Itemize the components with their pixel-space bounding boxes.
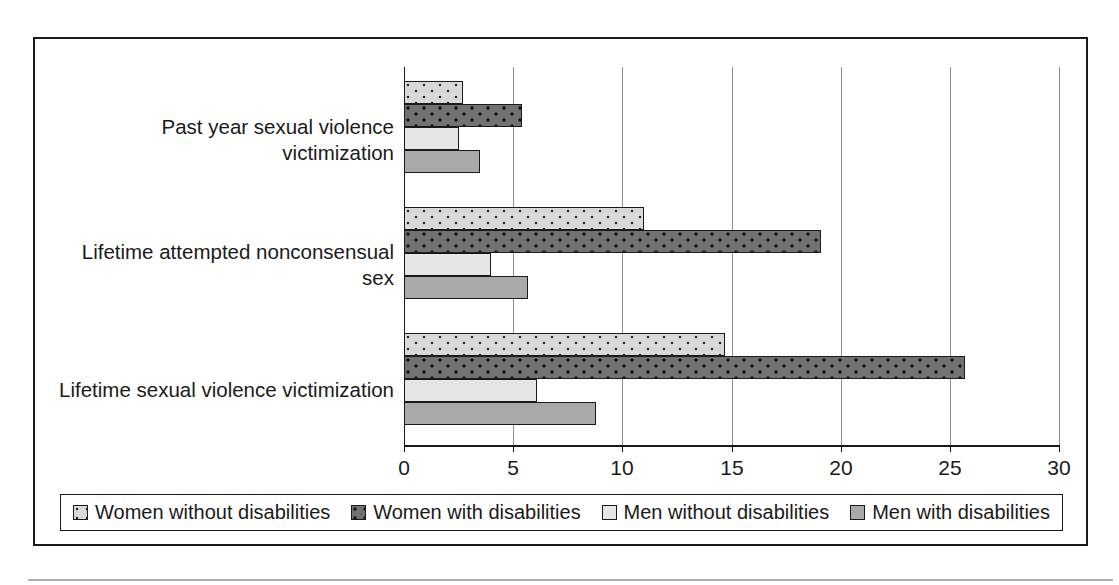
tick-label-1: 5 xyxy=(507,455,519,480)
chart-frame: Past year sexual violence victimization … xyxy=(33,37,1088,546)
bar-group1-series3 xyxy=(404,276,528,299)
legend-swatch-icon-2 xyxy=(602,505,617,520)
category-label-2: Lifetime sexual violence victimization xyxy=(59,377,394,403)
legend-item-0[interactable]: Women without disabilities xyxy=(73,501,330,524)
legend-label-2: Men without disabilities xyxy=(624,501,830,524)
tick-label-6: 30 xyxy=(1047,455,1070,480)
gridline-20 xyxy=(841,67,842,445)
bar-group1-series1 xyxy=(404,230,821,253)
category-label-1: Lifetime attempted nonconsensual sex xyxy=(82,239,394,291)
legend-label-1: Women with disabilities xyxy=(373,501,581,524)
tick-label-4: 20 xyxy=(829,455,852,480)
gridline-25 xyxy=(950,67,951,445)
legend-label-3: Men with disabilities xyxy=(872,501,1050,524)
tick-mark-4 xyxy=(841,445,842,452)
tick-mark-5 xyxy=(950,445,951,452)
bar-group2-series2 xyxy=(404,379,537,402)
tick-label-0: 0 xyxy=(398,455,410,480)
bar-group1-series2 xyxy=(404,253,491,276)
tick-mark-6 xyxy=(1059,445,1060,452)
legend-item-2[interactable]: Men without disabilities xyxy=(602,501,830,524)
bar-group1-series0 xyxy=(404,207,644,230)
tick-mark-2 xyxy=(622,445,623,452)
legend-swatch-icon-3 xyxy=(850,505,865,520)
legend-swatch-icon-1 xyxy=(351,505,366,520)
gridline-30 xyxy=(1059,67,1060,445)
tick-mark-1 xyxy=(513,445,514,452)
tick-label-2: 10 xyxy=(610,455,633,480)
bar-group2-series1 xyxy=(404,356,965,379)
bar-group0-series0 xyxy=(404,81,463,104)
bar-group2-series0 xyxy=(404,333,725,356)
bar-group2-series3 xyxy=(404,402,596,425)
tick-label-3: 15 xyxy=(720,455,743,480)
tick-mark-0 xyxy=(404,445,405,452)
bar-group0-series2 xyxy=(404,127,459,150)
legend-label-0: Women without disabilities xyxy=(95,501,330,524)
legend-item-1[interactable]: Women with disabilities xyxy=(351,501,581,524)
page-divider-rule xyxy=(28,579,1113,581)
tick-mark-3 xyxy=(732,445,733,452)
legend-item-3[interactable]: Men with disabilities xyxy=(850,501,1050,524)
chart-legend: Women without disabilities Women with di… xyxy=(60,494,1063,531)
bar-group0-series1 xyxy=(404,104,522,127)
gridline-10 xyxy=(622,67,623,445)
bar-group0-series3 xyxy=(404,150,480,173)
plot-area xyxy=(404,67,1059,445)
category-label-0: Past year sexual violence victimization xyxy=(162,114,394,166)
legend-swatch-icon-0 xyxy=(73,505,88,520)
tick-label-5: 25 xyxy=(938,455,961,480)
gridline-15 xyxy=(732,67,733,445)
